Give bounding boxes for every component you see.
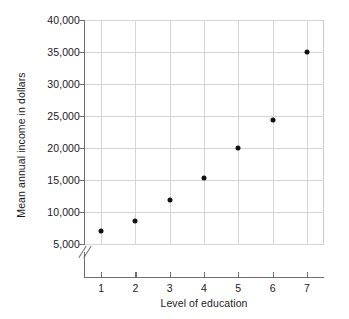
x-axis-title: Level of education [84,297,324,309]
x-axis-tick-labels: 1234567 [84,281,324,297]
gridline-vertical [204,20,205,244]
x-axis-tick-label: 6 [258,281,288,295]
x-axis-tick-mark [204,272,205,278]
y-axis-tick-labels: 5,00010,00015,00020,00025,00030,00035,00… [24,0,80,319]
x-axis-tick-label: 3 [155,281,185,295]
x-axis-tick-label: 5 [223,281,253,295]
y-axis-tick-label: 5,000 [24,239,80,250]
x-axis-tick-mark [273,272,274,278]
y-axis-tick-mark [79,244,85,245]
x-axis-tick-mark [101,272,102,278]
y-axis-tick-mark [79,116,85,117]
data-point [133,218,138,223]
gridline-vertical [170,20,171,244]
gridline-vertical [238,20,239,244]
gridline-vertical [101,20,102,244]
x-axis-tick-label: 1 [86,281,116,295]
data-point [236,146,241,151]
scatter-plot-figure: Mean annual income in dollars 5,00010,00… [0,0,349,319]
y-axis-tick-label: 25,000 [24,111,80,122]
data-point [202,176,207,181]
y-axis-tick-mark [79,52,85,53]
x-axis-tick-mark [307,272,308,278]
data-point [304,50,309,55]
x-axis-tick-label: 2 [120,281,150,295]
y-axis-tick-mark [79,84,85,85]
y-axis-tick-label: 10,000 [24,207,80,218]
y-axis-tick-mark [79,212,85,213]
y-axis-tick-label: 30,000 [24,79,80,90]
y-axis-tick-label: 20,000 [24,143,80,154]
x-axis-tick-label: 4 [189,281,219,295]
y-axis-tick-label: 40,000 [24,15,80,26]
data-point [167,197,172,202]
y-axis-tick-mark [79,148,85,149]
x-axis-tick-mark [135,272,136,278]
data-point [99,229,104,234]
gridline-horizontal [84,244,324,245]
y-axis-break-icon [76,244,94,260]
y-axis-tick-mark [79,20,85,21]
plot-area [84,20,324,244]
gridline-vertical [135,20,136,244]
plot-border-right [323,20,324,244]
y-axis-tick-label: 15,000 [24,175,80,186]
x-axis-tick-label: 7 [292,281,322,295]
x-axis-tick-mark [170,272,171,278]
y-axis-tick-label: 35,000 [24,47,80,58]
y-axis-line [84,20,85,244]
y-axis-tick-mark [79,180,85,181]
data-point [270,117,275,122]
x-axis-tick-mark [238,272,239,278]
gridline-vertical [273,20,274,244]
